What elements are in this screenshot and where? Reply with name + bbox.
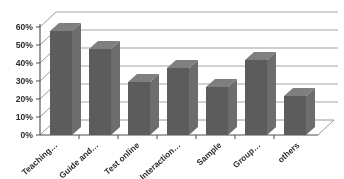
y-tick-label: 50% <box>16 40 34 50</box>
y-tick-label: 40% <box>16 58 34 68</box>
y-tick-label: 20% <box>16 94 34 104</box>
bar-column <box>50 23 81 135</box>
chart-container: 60% 50% 40% 30% 20% 10% 0% <box>0 0 344 179</box>
y-tick-label: 30% <box>16 76 34 86</box>
bar-column <box>245 52 276 135</box>
bar-column <box>284 88 315 135</box>
bar-column <box>89 41 120 135</box>
y-tick-label: 0% <box>21 130 34 140</box>
bar-column <box>128 74 159 135</box>
bar-chart-3d: 60% 50% 40% 30% 20% 10% 0% <box>0 0 344 179</box>
bar-column <box>206 79 237 135</box>
y-tick-label: 60% <box>16 22 34 32</box>
bar-column <box>167 60 198 135</box>
y-tick-label: 10% <box>16 112 34 122</box>
